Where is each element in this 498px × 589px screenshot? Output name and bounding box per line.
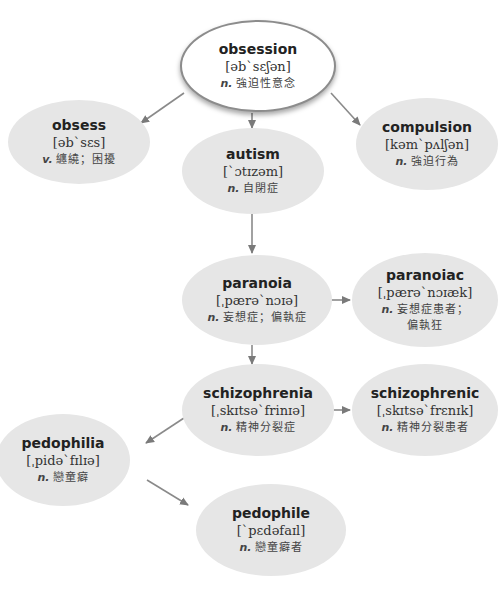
node-schizophrenic: schizophrenic [ˌskɪtsə`frɛnɪk] n.精神分裂患者 xyxy=(352,364,498,456)
node-word: schizophrenic xyxy=(371,384,480,402)
node-obsession: obsession [əb`sɛʃən] n.強迫性意念 xyxy=(180,20,336,112)
node-schizophrenia: schizophrenia [ˌskɪtsə`frinɪə] n.精神分裂症 xyxy=(182,364,334,456)
node-autism: autism [`ɔtɪzəm] n.自閉症 xyxy=(182,128,324,214)
node-ipa: [ˌpidə`fɪlɪə] xyxy=(26,452,100,470)
part-of-speech: n. xyxy=(207,311,219,324)
part-of-speech: n. xyxy=(227,182,239,195)
arrow-obsession-to-compulsion xyxy=(331,93,360,125)
node-word: compulsion xyxy=(382,118,472,136)
definition-text: 妄想症患者； xyxy=(397,303,469,316)
node-definition: n.戀童癖者 xyxy=(239,540,302,556)
node-ipa: [kəm`pʌlʃən] xyxy=(385,136,469,154)
part-of-speech: v. xyxy=(42,153,52,166)
node-word: paranoiac xyxy=(386,266,464,284)
node-word: schizophrenia xyxy=(203,384,313,402)
part-of-speech: n. xyxy=(37,471,49,484)
node-word: obsess xyxy=(52,116,106,134)
arrow-schizophrenia-to-pedophilia xyxy=(146,418,184,443)
node-ipa: [`pɛdəfaɪl] xyxy=(237,522,306,540)
part-of-speech: n. xyxy=(381,421,393,434)
definition-text: 戀童癖 xyxy=(53,471,89,484)
node-definition: n.戀童癖 xyxy=(37,470,88,486)
node-compulsion: compulsion [kəm`pʌlʃən] n.強迫行為 xyxy=(356,98,498,190)
node-definition: n.自閉症 xyxy=(227,181,278,197)
definition-text: 戀童癖者 xyxy=(255,541,303,554)
definition-text: 強迫性意念 xyxy=(236,77,296,90)
node-ipa: [ˌpærə`nɔɪə] xyxy=(216,292,298,310)
node-word: pedophilia xyxy=(22,434,105,452)
node-definition: n.精神分裂患者 xyxy=(381,420,468,436)
node-definition: n.妄想症；偏執症 xyxy=(207,310,306,326)
definition-text: 自閉症 xyxy=(243,182,279,195)
part-of-speech: n. xyxy=(239,541,251,554)
node-definition: n.妄想症患者； xyxy=(381,302,468,318)
definition-text: 精神分裂症 xyxy=(236,421,296,434)
node-definition: v.纏繞；困擾 xyxy=(42,152,115,168)
node-definition: n.強迫性意念 xyxy=(220,76,295,92)
definition-text: 強迫行為 xyxy=(411,155,459,168)
node-obsess: obsess [əb`sɛs] v.纏繞；困擾 xyxy=(8,100,150,184)
node-ipa: [ˌskɪtsə`frinɪə] xyxy=(211,402,305,420)
part-of-speech: n. xyxy=(395,155,407,168)
definition-text: 妄想症；偏執症 xyxy=(223,311,307,324)
definition-text: 精神分裂患者 xyxy=(397,421,469,434)
node-ipa: [ˌpærə`nɔɪæk] xyxy=(378,284,473,302)
arrow-pedophilia-to-pedophile xyxy=(147,480,188,505)
node-definition: n.強迫行為 xyxy=(395,154,458,170)
node-pedophile: pedophile [`pɛdəfaɪl] n.戀童癖者 xyxy=(196,484,346,576)
node-word: obsession xyxy=(219,40,298,58)
node-word: paranoia xyxy=(222,274,292,292)
node-paranoia: paranoia [ˌpærə`nɔɪə] n.妄想症；偏執症 xyxy=(182,255,332,345)
part-of-speech: n. xyxy=(381,303,393,316)
node-ipa: [`ɔtɪzəm] xyxy=(223,163,283,181)
arrow-obsession-to-obsess xyxy=(141,93,184,123)
part-of-speech: n. xyxy=(220,421,232,434)
node-ipa: [əb`sɛs] xyxy=(53,134,106,152)
node-definition-line2: 偏執狂 xyxy=(407,318,443,334)
node-definition: n.精神分裂症 xyxy=(220,420,295,436)
part-of-speech: n. xyxy=(220,77,232,90)
definition-text: 纏繞；困擾 xyxy=(56,153,116,166)
node-word: autism xyxy=(226,145,280,163)
node-paranoiac: paranoiac [ˌpærə`nɔɪæk] n.妄想症患者； 偏執狂 xyxy=(352,253,498,347)
node-ipa: [əb`sɛʃən] xyxy=(225,58,291,76)
node-word: pedophile xyxy=(232,504,310,522)
node-ipa: [ˌskɪtsə`frɛnɪk] xyxy=(377,402,474,420)
node-pedophilia: pedophilia [ˌpidə`fɪlɪə] n.戀童癖 xyxy=(0,414,130,506)
